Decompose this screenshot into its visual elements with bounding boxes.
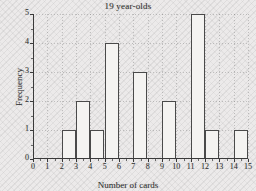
x-axis-minor-tick (69, 159, 70, 161)
x-axis-minor-tick (169, 159, 170, 161)
y-axis-tick (30, 159, 33, 160)
x-axis-minor-tick (55, 159, 56, 161)
y-axis-tick-label: 5 (19, 8, 29, 17)
x-axis-minor-tick (184, 159, 185, 161)
y-axis-tick (30, 130, 33, 131)
y-axis-tick-label: 4 (19, 37, 29, 46)
histogram-figure: 19 year-olds Frequency 01234567891011121… (0, 0, 256, 191)
y-axis-title-container: Frequency (2, 14, 14, 159)
x-axis-tick-label: 7 (126, 162, 140, 171)
x-axis-minor-tick (141, 159, 142, 161)
y-axis-tick-label: 0 (19, 153, 29, 162)
x-axis-minor-tick (227, 159, 228, 161)
x-axis-title: Number of cards (0, 180, 256, 190)
x-axis-tick-label: 12 (198, 162, 212, 171)
x-axis-tick-label: 8 (141, 162, 155, 171)
x-axis-minor-tick (212, 159, 213, 161)
x-axis-minor-tick (83, 159, 84, 161)
x-axis-tick-label: 0 (26, 162, 40, 171)
x-axis-minor-tick (198, 159, 199, 161)
x-axis-minor-tick (40, 159, 41, 161)
x-axis-tick-label: 14 (227, 162, 241, 171)
x-axis-minor-tick (112, 159, 113, 161)
x-axis-tick-label: 1 (40, 162, 54, 171)
y-axis-tick-label: 1 (19, 124, 29, 133)
chart-title: 19 year-olds (0, 1, 256, 11)
x-axis-tick-label: 15 (241, 162, 255, 171)
x-axis-tick-label: 10 (169, 162, 183, 171)
y-axis-minor-tick (31, 87, 33, 88)
plot-area: 0123456789101112131415012345 (33, 14, 248, 159)
y-axis-minor-tick (31, 116, 33, 117)
x-axis-tick-label: 11 (184, 162, 198, 171)
y-axis-minor-tick (31, 145, 33, 146)
y-axis-tick-label: 2 (19, 95, 29, 104)
x-axis-minor-tick (98, 159, 99, 161)
y-axis-minor-tick (31, 29, 33, 30)
x-axis-tick-label: 13 (212, 162, 226, 171)
x-axis-tick-label: 9 (155, 162, 169, 171)
y-axis-minor-tick (31, 58, 33, 59)
x-axis-tick-label: 5 (98, 162, 112, 171)
x-axis-tick-label: 4 (83, 162, 97, 171)
x-axis-tick-label: 6 (112, 162, 126, 171)
x-axis-minor-tick (126, 159, 127, 161)
x-axis-tick-label: 2 (55, 162, 69, 171)
y-axis-tick-label: 3 (19, 66, 29, 75)
y-axis-tick (30, 72, 33, 73)
x-axis-minor-tick (241, 159, 242, 161)
y-axis-tick (30, 14, 33, 15)
y-axis-line (33, 14, 34, 159)
y-axis-tick (30, 101, 33, 102)
axes-group (33, 14, 248, 159)
x-axis-tick-label: 3 (69, 162, 83, 171)
gridline-vertical (248, 14, 249, 159)
y-axis-tick (30, 43, 33, 44)
x-axis-minor-tick (155, 159, 156, 161)
